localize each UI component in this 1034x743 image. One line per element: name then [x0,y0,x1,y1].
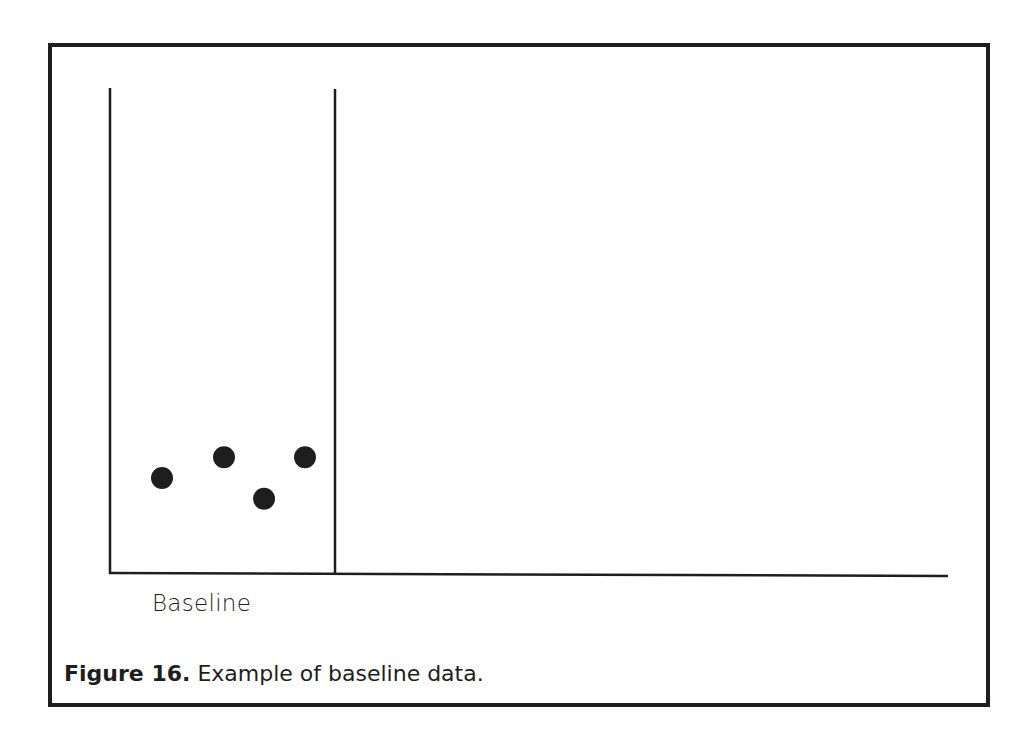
data-point [151,467,173,489]
x-axis [109,573,948,576]
phase-label-baseline: Baseline [152,590,251,616]
figure-caption: Figure 16. Example of baseline data. [64,661,484,686]
baseline-chart [0,0,1034,743]
data-point [253,488,275,510]
caption-text: Example of baseline data. [190,661,483,686]
caption-label: Figure 16. [64,661,190,686]
data-point [213,446,235,468]
data-points [151,446,316,510]
data-point [294,446,316,468]
